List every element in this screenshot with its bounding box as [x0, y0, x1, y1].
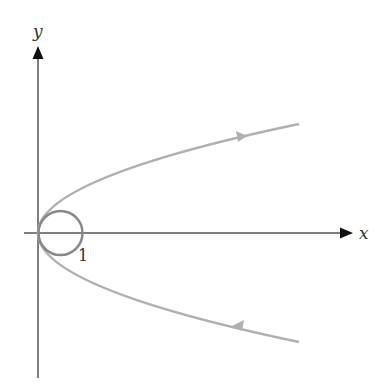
- tick-label-one: 1: [78, 246, 88, 265]
- y-axis-label: y: [32, 21, 43, 41]
- direction-arrow-right-icon: [236, 131, 247, 142]
- x-axis-arrow-icon: [340, 228, 353, 239]
- y-axis-arrow-icon: [33, 46, 44, 59]
- x-axis-label: x: [359, 223, 369, 243]
- phase-diagram: y x 1: [0, 0, 378, 389]
